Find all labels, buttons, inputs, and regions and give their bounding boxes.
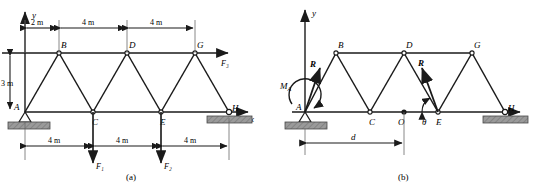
panel-b-diagram: y x B D G A C O E H [272,0,543,185]
truss-figure: y x F₃ B D G A C E H [0,0,543,185]
node-label-c-b: C [369,117,376,127]
dim-label-d: d [351,132,356,142]
node-label-b-a: B [61,40,67,50]
load-label-f2: F₂ [163,162,172,171]
support-pin-a [8,112,50,129]
resultant-vector-e [422,68,438,112]
resultant-label-e: R [417,58,424,68]
support-pin-b [285,112,327,129]
truss-members-b [305,53,505,112]
node-label-e-b: E [435,117,442,127]
caption-a: (a) [126,172,136,182]
dim-label-2m-a: 2 m [31,18,44,27]
node-label-g-a: G [197,40,204,50]
node-label-h-b: H [507,103,515,113]
node-label-e-a: E [159,117,166,127]
y-axis-label-b: y [311,8,316,18]
node-label-h-a: H [231,103,239,113]
dim-label-3m: 3 m [1,79,14,88]
resultant-label-a: R [309,59,316,69]
panel-a-diagram: y x F₃ B D G A C E H [0,0,272,185]
dim-ext-lines-top-a [25,20,195,53]
load-label-f3: F₃ [220,59,229,68]
node-label-a-b: A [295,102,302,112]
dim-label-bot-4m-2: 4 m [116,136,129,145]
node-label-b-b: B [338,40,344,50]
dim-label-bot-4m-3: 4 m [184,136,197,145]
angle-label-theta: θ [422,117,427,127]
load-label-f1: F₁ [95,162,104,171]
dim-label-bot-4m-1: 4 m [48,136,61,145]
moment-label-ma: MA [279,81,292,92]
node-label-g-b: G [474,40,481,50]
truss-members-a [25,53,229,112]
dim-label-top-4m-2: 4 m [150,18,163,27]
node-label-d-b: D [405,40,413,50]
node-label-d-a: D [128,40,136,50]
node-label-a-a: A [13,102,20,112]
dim-label-top-4m-1: 4 m [82,18,95,27]
angle-arc-theta [422,98,430,112]
caption-b: (b) [398,172,409,182]
